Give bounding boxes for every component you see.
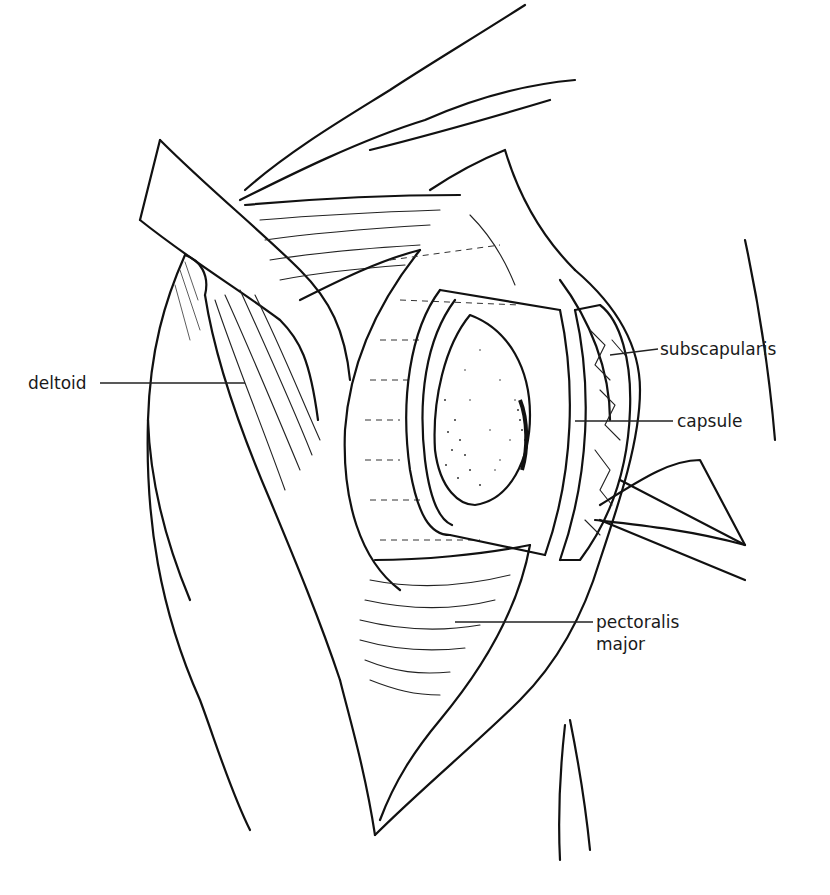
deep-field: [345, 245, 520, 590]
retractor-right: [595, 460, 745, 580]
shoulder-illustration: [0, 0, 830, 895]
shoulder-anatomy-figure: deltoid subscapularis capsule pectoralis…: [0, 0, 830, 895]
label-pectoralis: pectoralis: [596, 612, 679, 632]
label-major: major: [596, 634, 645, 654]
humeral-head: [435, 315, 530, 505]
label-capsule: capsule: [677, 411, 742, 431]
body-outline: [148, 5, 775, 860]
retractor-left: [140, 140, 350, 420]
label-deltoid: deltoid: [28, 373, 87, 393]
pectoralis-muscle: [340, 545, 530, 835]
leader-lines: [100, 349, 673, 622]
deltoid-muscle: [175, 255, 340, 680]
label-subscapularis: subscapularis: [660, 339, 776, 359]
